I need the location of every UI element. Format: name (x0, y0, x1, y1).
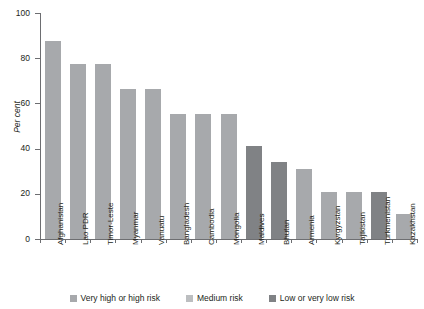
legend-item: Low or very low risk (269, 294, 355, 303)
x-tick (316, 239, 317, 243)
x-tick (115, 239, 116, 243)
y-axis-line (40, 13, 41, 239)
legend-item: Very high or high risk (70, 294, 160, 303)
x-tick (90, 239, 91, 243)
legend-label: Low or very low risk (280, 294, 355, 303)
y-tick (35, 58, 40, 59)
legend-label: Very high or high risk (81, 294, 160, 303)
y-tick (35, 13, 40, 14)
y-tick-label: 0 (0, 235, 30, 244)
legend-swatch-icon (70, 295, 77, 302)
y-tick (35, 194, 40, 195)
x-axis-label: Turkmenistan (383, 197, 392, 245)
x-axis-label: Timor-Leste (106, 203, 115, 245)
x-axis-label: Armenia (307, 215, 316, 245)
legend-label: Medium risk (197, 294, 243, 303)
x-axis-label: Mongolia (232, 213, 241, 245)
x-axis-label: Kazakhstan (408, 203, 417, 245)
x-axis-label: Kyrgyzstan (333, 205, 342, 245)
x-axis-label: Myanmar (131, 212, 140, 245)
x-axis-label: Bhutan (282, 220, 291, 245)
x-axis-label: Cambodia (207, 209, 216, 245)
x-axis-label: Vanuatu (157, 216, 166, 245)
y-tick-label: 100 (0, 9, 30, 18)
y-axis-title: Per cent (12, 87, 22, 147)
x-tick (266, 239, 267, 243)
x-tick (392, 239, 393, 243)
x-tick (241, 239, 242, 243)
y-tick (35, 149, 40, 150)
x-axis-label: Afghanistan (56, 203, 65, 245)
y-tick (35, 103, 40, 104)
x-axis-label: Tajikistan (358, 212, 367, 245)
x-axis-label: Bangladesh (182, 203, 191, 245)
x-axis-label: Lao PDR (81, 213, 90, 245)
x-tick (40, 239, 41, 243)
x-axis-label: Maldives (257, 213, 266, 245)
x-tick (65, 239, 66, 243)
x-tick (141, 239, 142, 243)
legend-item: Medium risk (186, 294, 243, 303)
y-tick-label: 20 (0, 189, 30, 198)
legend-swatch-icon (186, 295, 193, 302)
y-tick-label: 80 (0, 54, 30, 63)
x-tick (291, 239, 292, 243)
x-tick (216, 239, 217, 243)
x-tick (417, 239, 418, 243)
legend-swatch-icon (269, 295, 276, 302)
chart-legend: Very high or high riskMedium riskLow or … (0, 294, 424, 303)
bar-chart: 100806040200 Per cent AfghanistanLao PDR… (0, 0, 424, 309)
